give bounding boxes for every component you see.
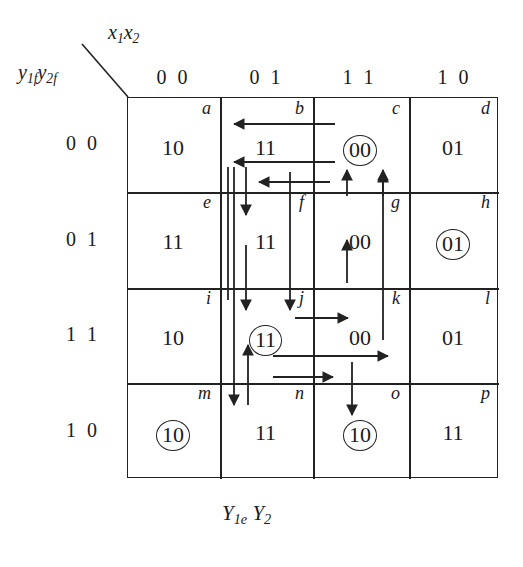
cell-value-c: 00 <box>312 135 408 166</box>
cell-value-text-a: 10 <box>162 135 184 160</box>
cell-label-p: p <box>481 384 490 402</box>
cell-n: n11 <box>219 382 312 478</box>
output-variables-caption: Y1e Y2 <box>222 503 271 526</box>
cell-value-g: 00 <box>312 229 408 255</box>
cell-a: a10 <box>127 97 219 191</box>
cell-h: h01 <box>408 191 498 287</box>
cell-value-text-m: 10 <box>156 420 190 451</box>
cell-d: d01 <box>408 97 498 191</box>
cell-label-n: n <box>295 384 304 402</box>
cell-value-text-d: 01 <box>442 135 464 160</box>
row-header-0: 0 0 <box>50 132 116 155</box>
cell-value-text-l: 01 <box>442 325 464 350</box>
cell-label-e: e <box>203 193 211 211</box>
cell-value-text-j: 11 <box>249 325 282 356</box>
cell-value-text-k: 00 <box>349 325 371 350</box>
cell-i: i10 <box>127 287 219 382</box>
cell-label-c: c <box>392 99 400 117</box>
cell-label-l: l <box>485 289 490 307</box>
cell-label-b: b <box>295 99 304 117</box>
cell-value-l: 01 <box>408 325 498 351</box>
column-header-3: 1 0 <box>408 66 501 89</box>
cell-value-o: 10 <box>312 420 408 451</box>
cell-c: c00 <box>312 97 408 191</box>
cell-value-text-n: 11 <box>255 420 276 445</box>
cell-label-o: o <box>391 384 400 402</box>
cell-value-j: 11 <box>219 325 312 356</box>
cell-value-text-f: 11 <box>255 229 276 254</box>
cell-value-b: 11 <box>219 135 312 161</box>
row-header-1: 0 1 <box>50 228 116 251</box>
input-variables-caption: x1x2 <box>108 22 139 45</box>
cell-value-e: 11 <box>127 229 219 255</box>
cell-value-n: 11 <box>219 420 312 446</box>
cell-b: b11 <box>219 97 312 191</box>
row-header-2: 1 1 <box>50 323 116 346</box>
cell-value-i: 10 <box>127 325 219 351</box>
cell-k: k00 <box>312 287 408 382</box>
cell-value-text-b: 11 <box>255 135 276 160</box>
column-header-2: 1 1 <box>313 66 406 89</box>
cell-p: p11 <box>408 382 498 478</box>
cell-value-f: 11 <box>219 229 312 255</box>
cell-value-d: 01 <box>408 135 498 161</box>
cell-value-text-g: 00 <box>349 229 371 254</box>
cell-g: g00 <box>312 191 408 287</box>
state-variables-caption: y1fy2f <box>18 62 57 85</box>
cell-value-p: 11 <box>408 420 498 446</box>
cell-label-d: d <box>481 99 490 117</box>
cell-value-m: 10 <box>127 420 219 451</box>
cell-label-j: j <box>299 289 304 307</box>
cell-label-g: g <box>391 193 400 211</box>
cell-value-text-i: 10 <box>162 325 184 350</box>
transition-map-figure: x1x2 y1fy2f Y1e Y2 0 0 0 1 1 1 1 0 0 0 0… <box>0 0 523 567</box>
cell-label-f: f <box>299 193 304 211</box>
cell-f: f11 <box>219 191 312 287</box>
cell-label-a: a <box>202 99 211 117</box>
cell-label-k: k <box>392 289 400 307</box>
cell-label-h: h <box>481 193 490 211</box>
cell-value-text-e: 11 <box>162 229 183 254</box>
cell-value-a: 10 <box>127 135 219 161</box>
cell-value-text-h: 01 <box>436 229 470 260</box>
cell-value-k: 00 <box>312 325 408 351</box>
cell-value-text-p: 11 <box>442 420 463 445</box>
cell-value-text-o: 10 <box>343 420 377 451</box>
cell-value-h: 01 <box>408 229 498 260</box>
cell-e: e11 <box>127 191 219 287</box>
cell-label-m: m <box>198 384 211 402</box>
cell-o: o10 <box>312 382 408 478</box>
cell-value-text-c: 00 <box>343 135 377 166</box>
row-header-3: 1 0 <box>50 419 116 442</box>
cell-label-i: i <box>206 289 211 307</box>
column-header-0: 0 0 <box>127 66 220 89</box>
column-header-1: 0 1 <box>220 66 313 89</box>
cell-j: j11 <box>219 287 312 382</box>
cell-l: l01 <box>408 287 498 382</box>
cell-m: m10 <box>127 382 219 478</box>
